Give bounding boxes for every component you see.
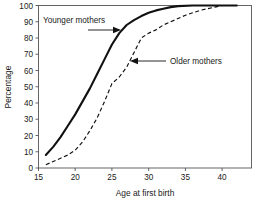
x-tick-label: 35: [181, 173, 191, 182]
y-axis-title: Percentage: [3, 65, 13, 108]
y-tick-label: 50: [24, 83, 34, 92]
y-tick-label: 80: [24, 34, 34, 43]
y-tick-label: 30: [24, 115, 34, 124]
x-tick-label: 30: [144, 173, 154, 182]
y-tick-label: 40: [24, 99, 34, 108]
y-tick-label: 70: [24, 50, 34, 59]
annotation-label-younger-mothers: Younger mothers: [43, 16, 105, 25]
x-axis-title: Age at first birth: [116, 188, 175, 198]
y-tick-label: 90: [24, 18, 34, 27]
x-tick-label: 15: [34, 173, 44, 182]
annotation-label-older-mothers: Older mothers: [170, 57, 222, 66]
cumulative-percentage-chart: 0 10 20 30 40 50 60 70 80 90 100 15 20 2…: [0, 0, 262, 203]
y-tick-label: 60: [24, 67, 34, 76]
y-tick-label: 20: [24, 132, 34, 141]
y-tick-label: 100: [19, 2, 33, 11]
y-tick-label: 10: [24, 148, 34, 157]
x-tick-label: 20: [71, 173, 81, 182]
y-tick-label: 0: [28, 164, 33, 173]
x-tick-label: 25: [107, 173, 117, 182]
x-tick-label: 40: [218, 173, 228, 182]
chart-figure: 0 10 20 30 40 50 60 70 80 90 100 15 20 2…: [0, 0, 262, 203]
